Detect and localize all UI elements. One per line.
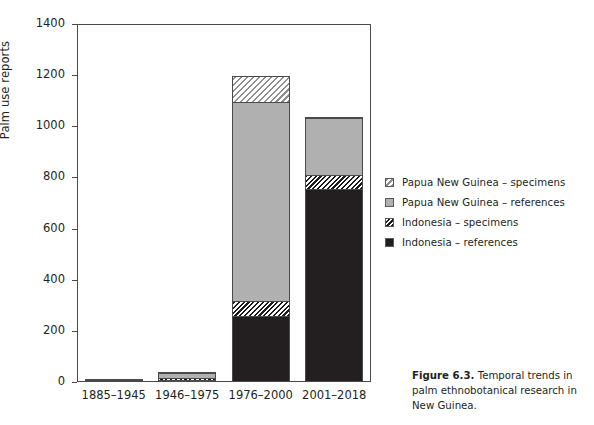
bar-segment-png-references bbox=[232, 103, 290, 302]
bar-segment-indonesia-references bbox=[158, 381, 216, 382]
legend-label: Papua New Guinea – specimens bbox=[402, 177, 565, 188]
x-tick-label: 1885–1945 bbox=[77, 388, 151, 402]
bar-stack bbox=[85, 24, 143, 382]
x-tick-label: 1976–2000 bbox=[224, 388, 298, 402]
y-tick-mark bbox=[72, 331, 77, 332]
y-tick-label: 1400 bbox=[36, 16, 65, 30]
legend-swatch-light-solid bbox=[385, 198, 394, 207]
figure-caption: Figure 6.3. Temporal trends in palm ethn… bbox=[412, 368, 588, 413]
bar-segment-indonesia-references bbox=[232, 317, 290, 382]
caption-label: Figure 6.3. bbox=[412, 370, 474, 381]
legend: Papua New Guinea – specimensPapua New Gu… bbox=[385, 172, 590, 252]
bar-segment-indonesia-specimens bbox=[158, 379, 216, 381]
y-tick-label: 800 bbox=[43, 169, 65, 183]
y-tick-mark bbox=[72, 75, 77, 76]
bar-top-cap bbox=[305, 117, 363, 118]
legend-label: Papua New Guinea – references bbox=[402, 197, 565, 208]
y-tick-mark bbox=[72, 229, 77, 230]
legend-swatch-light-hatched bbox=[385, 178, 394, 187]
bar-stack bbox=[232, 24, 290, 382]
y-tick-mark bbox=[72, 177, 77, 178]
y-tick-label: 600 bbox=[43, 221, 65, 235]
y-tick-label: 400 bbox=[43, 272, 65, 286]
y-tick-label: 0 bbox=[58, 374, 65, 388]
y-tick-mark bbox=[72, 280, 77, 281]
x-tick-label: 1946–1975 bbox=[151, 388, 225, 402]
legend-label: Indonesia – specimens bbox=[402, 217, 518, 228]
y-tick-label: 200 bbox=[43, 323, 65, 337]
bar-segment-indonesia-specimens bbox=[85, 381, 143, 382]
bar-segment-indonesia-references bbox=[305, 190, 363, 382]
legend-swatch-dark-solid bbox=[385, 238, 394, 247]
figure-container: Palm use reports 02004006008001000120014… bbox=[0, 0, 594, 425]
y-tick-label: 1000 bbox=[36, 118, 65, 132]
x-tick-label: 2001–2018 bbox=[298, 388, 372, 402]
legend-swatch-dark-hatched bbox=[385, 218, 394, 227]
bar-segment-png-specimens bbox=[232, 76, 290, 103]
bar-segment-indonesia-specimens bbox=[232, 302, 290, 317]
bar-stack bbox=[305, 24, 363, 382]
y-tick-mark bbox=[72, 382, 77, 383]
y-tick-mark bbox=[72, 126, 77, 127]
bar-top-cap bbox=[158, 372, 216, 373]
bar-segment-png-references bbox=[158, 374, 216, 380]
legend-item: Indonesia – references bbox=[385, 232, 590, 252]
legend-item: Indonesia – specimens bbox=[385, 212, 590, 232]
y-tick-label: 1200 bbox=[36, 67, 65, 81]
bar-stack bbox=[158, 24, 216, 382]
bar-top-cap bbox=[85, 379, 143, 380]
y-tick-mark bbox=[72, 24, 77, 25]
y-axis-title: Palm use reports bbox=[0, 30, 12, 150]
bar-top-cap bbox=[232, 76, 290, 77]
bar-segment-png-references bbox=[305, 118, 363, 176]
bar-segment-indonesia-specimens bbox=[305, 176, 363, 190]
legend-item: Papua New Guinea – specimens bbox=[385, 172, 590, 192]
legend-item: Papua New Guinea – references bbox=[385, 192, 590, 212]
legend-label: Indonesia – references bbox=[402, 237, 518, 248]
